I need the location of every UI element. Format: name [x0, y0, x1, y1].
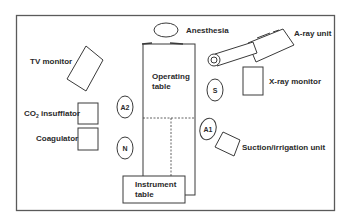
operating-table: Operating table: [142, 43, 195, 195]
suction-irrigation-label: Suction/irrigation unit: [242, 143, 325, 152]
nurse-label: N: [122, 145, 127, 152]
assistant-1-label: A1: [204, 126, 213, 133]
a-ray-unit-label: A-ray unit: [294, 29, 332, 38]
instrument-table-label-line1: Instrument: [135, 180, 177, 189]
x-ray-monitor-label: X-ray monitor: [269, 77, 321, 86]
assistant-2-label: A2: [121, 104, 130, 111]
tv-monitor-label: TV monitor: [30, 57, 72, 66]
x-ray-monitor-shape: [243, 67, 263, 95]
coagulator-label: Coagulator: [36, 134, 78, 143]
x-ray-monitor: X-ray monitor: [243, 67, 321, 95]
co2-insufflator: CO2 insufflator: [24, 103, 98, 124]
operating-table-label-line2: table: [152, 82, 171, 91]
instrument-table: Instrument table: [123, 176, 185, 203]
co2-prefix: CO: [24, 109, 36, 118]
tv-monitor: TV monitor: [30, 46, 103, 91]
coagulator-shape: [78, 128, 98, 150]
co2-insufflator-label: CO2 insufflator: [24, 109, 80, 119]
operating-table-shape: [143, 44, 195, 195]
co2-insufflator-shape: [78, 103, 98, 124]
operating-room-diagram: Anesthesia TV monitor Operating table A-…: [0, 0, 349, 221]
person-assistant-2: A2: [117, 96, 133, 118]
suction-irrigation-unit: Suction/irrigation unit: [215, 132, 325, 156]
anesthesia-label: Anesthesia: [186, 26, 229, 35]
suction-irrigation-shape: [215, 132, 240, 156]
anesthesia-station: Anesthesia: [154, 23, 229, 37]
a-ray-unit-pivot-inner: [211, 57, 217, 63]
person-assistant-1: A1: [197, 116, 218, 141]
person-nurse: N: [117, 137, 133, 159]
person-surgeon: S: [207, 79, 223, 101]
operating-table-label-line1: Operating: [152, 72, 190, 81]
operating-table-top-mark-left: [142, 43, 152, 44]
instrument-table-label-line2: table: [135, 190, 154, 199]
co2-suffix: insufflator: [39, 109, 80, 118]
coagulator: Coagulator: [36, 128, 98, 150]
a-ray-unit-body: [248, 29, 294, 62]
surgeon-label: S: [213, 87, 218, 94]
operating-table-top-mark-right: [170, 43, 183, 44]
a-ray-unit-arm: [215, 42, 257, 66]
tv-monitor-shape: [67, 46, 103, 91]
anesthesia-shape: [154, 23, 178, 37]
